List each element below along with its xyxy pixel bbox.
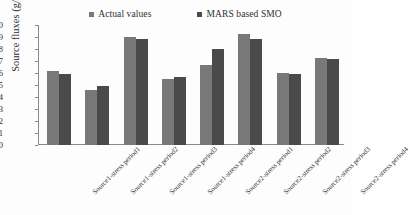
bar-mars-based-smo: [136, 39, 148, 145]
y-tick-label: 6: [0, 69, 3, 78]
bar-group: [315, 25, 339, 145]
y-tick-label: 8: [0, 45, 3, 54]
bar-group: [200, 25, 224, 145]
bar-group: [47, 25, 71, 145]
x-axis-labels: Source1-stress period1Source1-stress per…: [38, 146, 344, 215]
bar-actual-values: [315, 58, 327, 145]
bar-mars-based-smo: [327, 59, 339, 145]
y-tick-label: 0: [0, 141, 3, 150]
y-tick-label: 7: [0, 57, 3, 66]
legend-entry-mars-based-smo: MARS based SMO: [197, 9, 281, 19]
plot-area: 012345678910: [38, 25, 344, 145]
bar-group: [238, 25, 262, 145]
bar-actual-values: [85, 90, 97, 145]
bar-mars-based-smo: [59, 74, 71, 145]
bars-layer: [38, 25, 344, 145]
y-tick-label: 5: [0, 81, 3, 90]
y-tick-label: 10: [0, 21, 3, 30]
bar-mars-based-smo: [250, 39, 262, 145]
bar-group: [124, 25, 148, 145]
y-tick-label: 2: [0, 117, 3, 126]
legend-swatch-mars-based-smo: [197, 12, 202, 17]
legend-label-actual-values: Actual values: [98, 9, 151, 19]
chart-legend: Actual values MARS based SMO: [0, 6, 351, 22]
bar-actual-values: [47, 71, 59, 145]
legend-entry-actual-values: Actual values: [89, 9, 151, 19]
y-tick-label: 9: [0, 33, 3, 42]
bar-actual-values: [124, 37, 136, 145]
bar-group: [85, 25, 109, 145]
y-axis-title: Source fluxes (g/sec): [10, 0, 21, 91]
bar-group: [162, 25, 186, 145]
y-tick-label: 3: [0, 105, 3, 114]
bar-actual-values: [277, 73, 289, 145]
legend-swatch-actual-values: [89, 12, 94, 17]
y-tick-label: 4: [0, 93, 3, 102]
bar-mars-based-smo: [97, 86, 109, 145]
bar-mars-based-smo: [174, 77, 186, 145]
bar-actual-values: [200, 65, 212, 145]
y-tick-label: 1: [0, 129, 3, 138]
bar-mars-based-smo: [289, 74, 301, 145]
legend-label-mars-based-smo: MARS based SMO: [206, 9, 281, 19]
bar-group: [277, 25, 301, 145]
bar-actual-values: [162, 79, 174, 145]
bar-mars-based-smo: [212, 49, 224, 145]
bar-actual-values: [238, 34, 250, 145]
